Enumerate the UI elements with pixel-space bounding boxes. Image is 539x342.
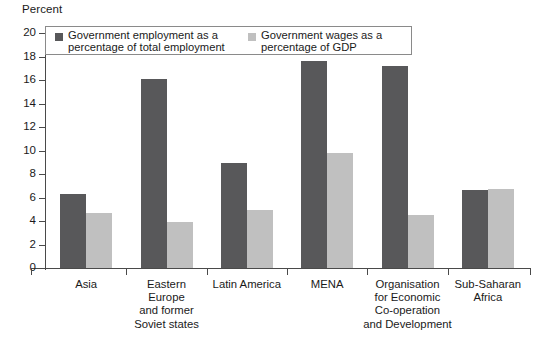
x-axis-tick <box>448 268 449 275</box>
bar <box>488 189 514 268</box>
x-axis-category-label: Organisation for Economic Co-operation a… <box>361 278 453 331</box>
x-axis-line <box>31 268 530 269</box>
bar <box>141 79 167 268</box>
y-axis-tick-label: 12 <box>12 121 36 133</box>
bar <box>462 190 488 268</box>
x-axis-tick <box>207 268 208 275</box>
y-axis-tick <box>39 221 45 222</box>
bar <box>86 213 112 268</box>
bar <box>221 163 247 268</box>
y-axis-title: Percent <box>22 3 62 15</box>
y-axis-tick <box>39 151 45 152</box>
x-axis-category-label: Asia <box>40 278 132 291</box>
x-axis-tick <box>367 268 368 275</box>
bar <box>382 66 408 268</box>
y-axis-tick-label: 16 <box>12 74 36 86</box>
x-axis-category-label: Latin America <box>201 278 293 291</box>
y-axis-tick-label: 20 <box>12 27 36 39</box>
x-axis-category-label: Eastern Europe and former Soviet states <box>120 278 212 331</box>
x-axis-tick <box>530 268 531 275</box>
y-axis-tick <box>39 268 45 269</box>
y-axis-tick <box>39 198 45 199</box>
x-axis-tick <box>31 268 32 275</box>
legend-swatch-icon-dark <box>55 33 63 41</box>
y-axis-tick-label: 4 <box>12 215 36 227</box>
bar <box>408 215 434 268</box>
legend-label-government-wages: Government wages as a percentage of GDP <box>261 30 382 53</box>
y-axis-tick <box>39 104 45 105</box>
bar-chart: Percent 02468101214161820 AsiaEastern Eu… <box>0 0 539 342</box>
legend-label-government-employment: Government employment as a percentage of… <box>68 30 225 53</box>
y-axis-tick <box>39 174 45 175</box>
y-axis-tick-label: 2 <box>12 239 36 251</box>
y-axis-tick <box>39 57 45 58</box>
y-axis-tick <box>39 245 45 246</box>
bar <box>247 210 273 268</box>
y-axis-tick-label: 0 <box>12 262 36 274</box>
bar <box>167 222 193 268</box>
y-axis-tick-label: 8 <box>12 168 36 180</box>
y-axis-tick <box>39 80 45 81</box>
y-axis-tick-label: 18 <box>12 51 36 63</box>
legend-swatch-icon-light <box>248 33 256 41</box>
legend: Government employment as a percentage of… <box>45 26 412 55</box>
y-axis-tick-label: 10 <box>12 145 36 157</box>
x-axis-tick <box>287 268 288 275</box>
bar <box>327 153 353 268</box>
y-axis-tick <box>39 127 45 128</box>
legend-entry-government-wages: Government wages as a percentage of GDP <box>248 30 382 53</box>
x-axis-category-label: Sub-Saharan Africa <box>442 278 534 304</box>
bars-layer <box>46 33 528 268</box>
legend-entry-government-employment: Government employment as a percentage of… <box>55 30 225 53</box>
y-axis-tick-label: 6 <box>12 192 36 204</box>
x-axis-category-label: MENA <box>281 278 373 291</box>
bar <box>301 61 327 268</box>
y-axis-tick-label: 14 <box>12 98 36 110</box>
x-axis-tick <box>126 268 127 275</box>
bar <box>60 194 86 268</box>
